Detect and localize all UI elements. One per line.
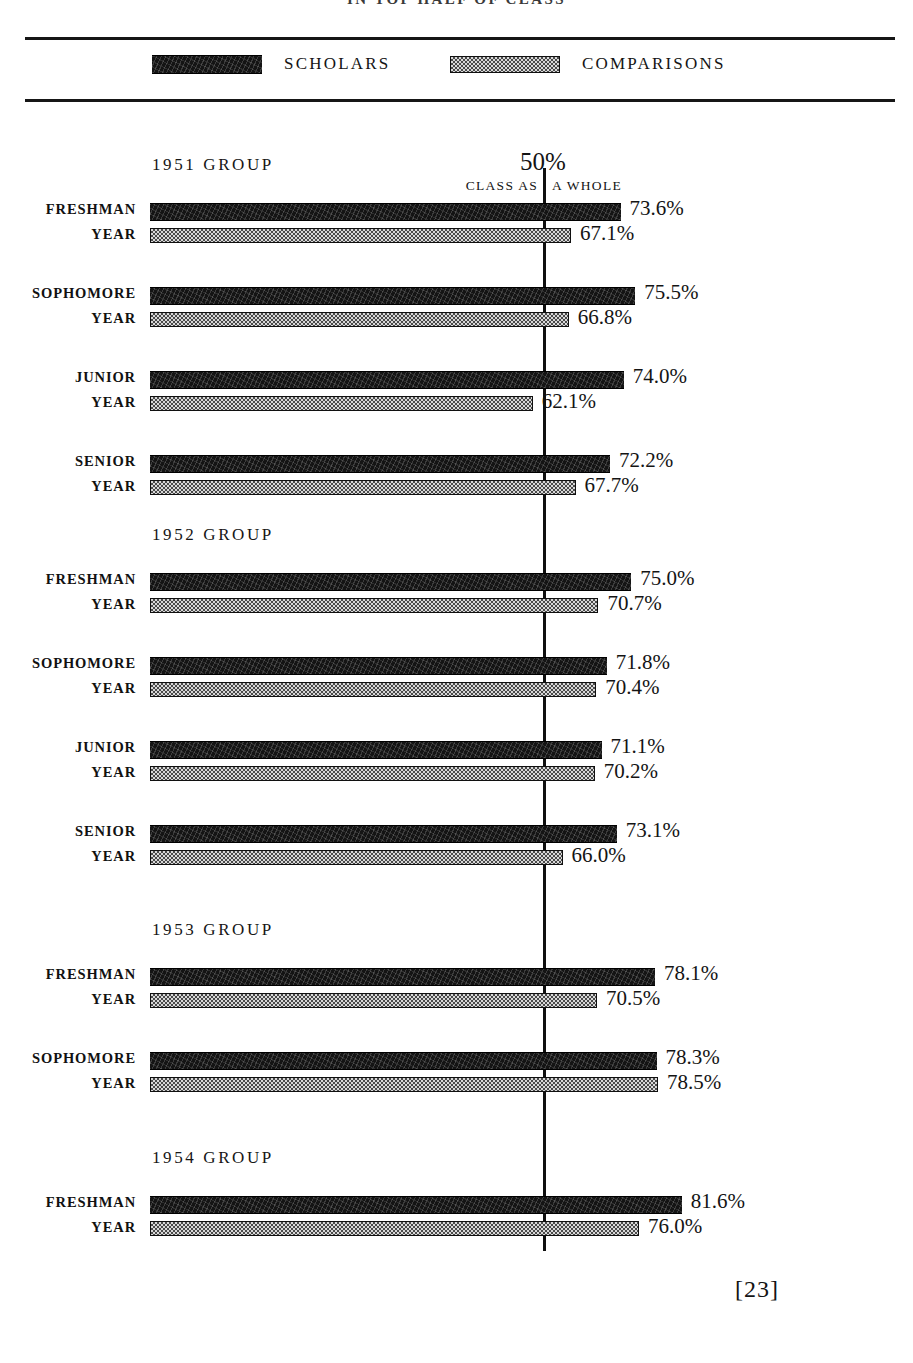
bar-value-scholars: 78.1% [664, 961, 718, 986]
bar-value-scholars: 71.8% [616, 650, 670, 675]
row-label-year: YEAR [0, 764, 136, 781]
bar-comparisons [150, 228, 571, 243]
bar-value-scholars: 74.0% [633, 364, 687, 389]
row-label-freshman: FRESHMAN [0, 571, 136, 588]
bar-comparisons [150, 396, 533, 411]
bar-scholars [150, 371, 624, 389]
bar-comparisons [150, 1221, 639, 1236]
bar-value-scholars: 81.6% [691, 1189, 745, 1214]
row-label-year: YEAR [0, 680, 136, 697]
bar-comparisons [150, 1077, 658, 1092]
row-label-sophomore: SOPHOMORE [0, 1050, 136, 1067]
bar-scholars [150, 741, 602, 759]
group-heading-1952: 1952 GROUP [152, 525, 274, 545]
bar-comparisons [150, 598, 598, 613]
bar-value-comparisons: 66.0% [572, 843, 626, 868]
bar-value-scholars: 78.3% [666, 1045, 720, 1070]
bar-scholars [150, 573, 631, 591]
row-label-sophomore: SOPHOMORE [0, 285, 136, 302]
bar-comparisons [150, 993, 597, 1008]
row-label-senior: SENIOR [0, 823, 136, 840]
bar-value-scholars: 73.6% [630, 196, 684, 221]
bar-value-comparisons: 66.8% [578, 305, 632, 330]
row-label-year: YEAR [0, 226, 136, 243]
row-label-year: YEAR [0, 310, 136, 327]
bar-value-comparisons: 70.5% [606, 986, 660, 1011]
midline-caption-left: CLASS AS [350, 178, 538, 194]
row-label-year: YEAR [0, 991, 136, 1008]
row-label-year: YEAR [0, 848, 136, 865]
bar-value-comparisons: 70.2% [604, 759, 658, 784]
row-label-junior: JUNIOR [0, 369, 136, 386]
bar-value-comparisons: 78.5% [667, 1070, 721, 1095]
bar-value-scholars: 71.1% [611, 734, 665, 759]
bar-value-scholars: 72.2% [619, 448, 673, 473]
page-number: [23] [735, 1276, 779, 1303]
row-label-senior: SENIOR [0, 453, 136, 470]
bar-scholars [150, 825, 617, 843]
bar-value-comparisons: 70.4% [605, 675, 659, 700]
bar-comparisons [150, 312, 569, 327]
midline-caption-right: A WHOLE [552, 178, 752, 194]
chart-area: 50% CLASS AS A WHOLE 1951 GROUPFRESHMANY… [0, 0, 913, 1363]
row-label-sophomore: SOPHOMORE [0, 655, 136, 672]
bar-scholars [150, 287, 635, 305]
bar-comparisons [150, 480, 576, 495]
bar-comparisons [150, 766, 595, 781]
group-heading-1954: 1954 GROUP [152, 1148, 274, 1168]
row-label-freshman: FRESHMAN [0, 1194, 136, 1211]
bar-scholars [150, 657, 607, 675]
bar-value-comparisons: 76.0% [648, 1214, 702, 1239]
group-heading-1951: 1951 GROUP [152, 155, 274, 175]
bar-value-comparisons: 67.7% [585, 473, 639, 498]
bar-scholars [150, 203, 621, 221]
bar-value-comparisons: 70.7% [607, 591, 661, 616]
bar-value-scholars: 75.0% [640, 566, 694, 591]
row-label-freshman: FRESHMAN [0, 966, 136, 983]
bar-comparisons [150, 850, 563, 865]
bar-scholars [150, 1196, 682, 1214]
bar-value-scholars: 75.5% [644, 280, 698, 305]
row-label-year: YEAR [0, 394, 136, 411]
row-label-freshman: FRESHMAN [0, 201, 136, 218]
bar-value-comparisons: 62.1% [542, 389, 596, 414]
bar-scholars [150, 455, 610, 473]
row-label-junior: JUNIOR [0, 739, 136, 756]
row-label-year: YEAR [0, 596, 136, 613]
bar-value-scholars: 73.1% [626, 818, 680, 843]
bar-scholars [150, 968, 655, 986]
row-label-year: YEAR [0, 1219, 136, 1236]
bar-value-comparisons: 67.1% [580, 221, 634, 246]
row-label-year: YEAR [0, 478, 136, 495]
bar-scholars [150, 1052, 657, 1070]
row-label-year: YEAR [0, 1075, 136, 1092]
group-heading-1953: 1953 GROUP [152, 920, 274, 940]
bar-comparisons [150, 682, 596, 697]
